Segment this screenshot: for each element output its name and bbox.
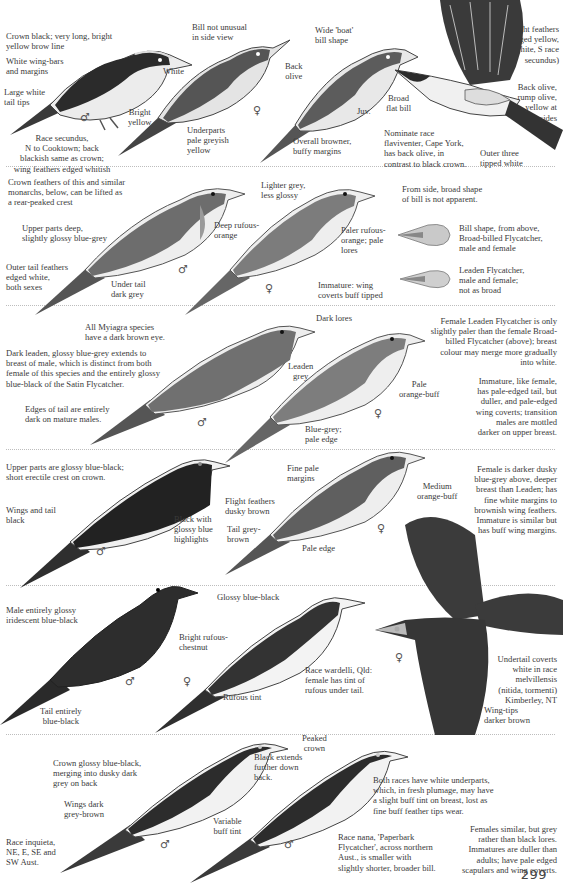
page-number: 299: [521, 867, 547, 882]
label-medium: Medium orange-buff: [417, 481, 457, 501]
label-wingtips: Wing-tips darker brown: [484, 705, 530, 725]
label-immature2: Immature, like female, has pale-edged ta…: [476, 376, 557, 437]
label-white: White: [163, 66, 184, 76]
label-wingsdark: Wings dark grey-brown: [64, 799, 104, 819]
label-glossy: Upper parts are glossy blue-black; short…: [6, 462, 124, 482]
label-billshape: Bill shape, from above, Broad-billed Fly…: [459, 223, 543, 254]
label-broadflatbill: Broad flat bill: [386, 93, 411, 113]
label-fromside: From side, broad shape of bill is not ap…: [402, 184, 482, 204]
male-symbol: ♂: [125, 675, 135, 688]
label-leadenbill: Leaden Flycatcher, male and female; not …: [459, 265, 525, 296]
label-paleedge: Pale edge: [302, 543, 335, 553]
label-maleentirely: Male entirely glossy iridescent blue-bla…: [6, 605, 78, 625]
label-overall: Overall browner, buffy margins: [293, 136, 351, 156]
label-outerthree: Outer three tipped white: [480, 148, 523, 168]
male-symbol: ♂: [178, 263, 188, 276]
label-race-secundus: Race secundus, N to Cooktown; back black…: [12, 133, 112, 174]
label-darklores: Dark lores: [316, 313, 352, 323]
male-symbol: ♂: [284, 838, 294, 851]
label-racenana: Race nana, 'Paperbark Flycatcher', acros…: [338, 832, 436, 873]
label-racewardelli: Race wardelli, Qld: female has tint of r…: [305, 665, 372, 696]
label-bothraces: Both races have white underparts, which,…: [373, 775, 494, 816]
label-femaledarker: Female is darker dusky blue-grey above, …: [474, 464, 557, 535]
label-flightdusky: Flight feathers dusky brown: [225, 496, 275, 516]
label-tailtips: Large white tail tips: [4, 87, 45, 107]
label-wingbars: White wing-bars and margins: [6, 56, 64, 76]
label-flightfeathers: Flight feathers edged yellow, (white, S …: [509, 24, 559, 65]
label-paler: Paler rufous- orange; pale lores: [341, 225, 386, 256]
label-tailentirely: Tail entirely blue-black: [40, 706, 82, 726]
label-upperparts: Upper parts deep, slightly glossy blue-g…: [22, 223, 107, 243]
label-billnot: Bill not unusual in side view: [192, 22, 247, 42]
label-darkleaden: Dark leaden, glossy blue-grey extends to…: [6, 348, 160, 389]
bill-from-above-leaden-illustration: [400, 265, 455, 293]
female-symbol: ♀: [265, 282, 273, 295]
label-tailgrey: Tail grey- brown: [227, 524, 261, 544]
label-immature: Immature: wing coverts buff tipped: [318, 280, 383, 300]
label-blackextends: Black extends further down back.: [254, 752, 302, 783]
female-symbol: ♀: [183, 675, 191, 688]
label-outertail: Outer tail feathers edged white, both se…: [6, 262, 68, 293]
label-edges: Edges of tail are entirely dark on matur…: [25, 404, 109, 424]
label-paleorange: Pale orange-buff: [399, 379, 439, 399]
female-symbol: ♀: [395, 651, 403, 664]
label-backolive: Back olive: [285, 61, 303, 81]
male-symbol: ♂: [80, 111, 90, 124]
label-leadengrey: Leaden grey: [288, 361, 313, 381]
label-glossyblueblack: Glossy blue-black: [217, 592, 279, 602]
label-bluegrey: Blue-grey; pale edge: [305, 424, 342, 444]
male-symbol: ♂: [160, 838, 170, 851]
bill-from-above-broad-illustration: [398, 220, 453, 250]
female-symbol: ♀: [377, 522, 385, 535]
male-symbol: ♂: [197, 416, 207, 429]
label-nominate: Nominate race flaviventer, Cape York, ha…: [384, 128, 467, 169]
label-femaleleaden: Female Leaden Flycatcher is only slightl…: [431, 316, 557, 367]
label-wingstail: Wings and tail black: [6, 505, 56, 525]
label-backolive2: Back olive, rump olive, yellow at sides: [517, 82, 557, 123]
label-juv: Juv.: [357, 106, 371, 116]
label-brightrufous: Bright rufous- chestnut: [179, 632, 228, 652]
label-brightyellow: Bright yellow: [128, 107, 151, 127]
label-wideboat: Wide 'boat' bill shape: [315, 25, 353, 45]
label-crownfeathers: Crown feathers of this and similar monar…: [8, 177, 125, 208]
female-symbol: ♀: [374, 407, 382, 420]
label-underparts: Underparts pale greyish yellow: [187, 125, 229, 156]
label-myiagra: All Myiagra species have a dark brown ey…: [85, 322, 165, 342]
female-symbol: ♀: [253, 104, 261, 117]
shining-flycatcher-female-illustration: [150, 585, 370, 735]
label-rufoustint: Rufous tint: [223, 692, 261, 702]
male-symbol: ♂: [96, 545, 106, 558]
label-undertailcoverts: Undertail coverts white in race melville…: [498, 654, 557, 705]
label-raceinquieta: Race inquieta, NE, E, SE and SW Aust.: [6, 837, 56, 868]
label-undertail: Under tail dark grey: [111, 279, 146, 299]
label-variable: Variable buff tint: [213, 816, 242, 836]
label-peaked: Peaked crown: [302, 733, 327, 753]
label-lighter: Lighter grey, less glossy: [261, 180, 305, 200]
label-crown: Crown black; very long, bright yellow br…: [6, 31, 112, 51]
label-finepale: Fine pale margins: [287, 463, 319, 483]
label-blackwith: Black with glossy blue highlights: [174, 514, 213, 545]
label-deeprufous: Deep rufous- orange: [214, 220, 259, 240]
label-crownglossy: Crown glossy blue-black, merging into du…: [53, 758, 141, 789]
